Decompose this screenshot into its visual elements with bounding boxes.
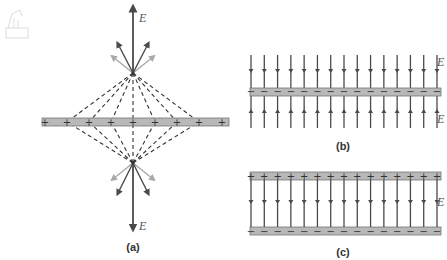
- svg-text:+: +: [218, 117, 226, 128]
- charge-sign: −: [420, 86, 428, 97]
- charge-sign: −: [313, 226, 321, 237]
- field-label-b-bottom: E: [436, 112, 445, 126]
- svg-text:+: +: [41, 117, 49, 128]
- charge-sign: +: [406, 171, 414, 182]
- charge-sign: +: [273, 171, 281, 182]
- charge-sign: −: [433, 86, 441, 97]
- panel-c: +−+−+−+−+−+−+−+−+−+−+−+−+−+−+− E (c): [247, 171, 445, 258]
- charge-sign: −: [393, 226, 401, 237]
- charge-sign: +: [353, 171, 361, 182]
- charge-sign: −: [380, 226, 388, 237]
- field-label-a-top: E: [138, 11, 147, 25]
- charge-sign: −: [380, 86, 388, 97]
- charge-sign: −: [327, 86, 335, 97]
- upper-field-arrows: [113, 8, 153, 75]
- charge-sign: −: [300, 86, 308, 97]
- charge-sign: +: [393, 171, 401, 182]
- charge-sign: +: [327, 171, 335, 182]
- charge-sign: +: [313, 171, 321, 182]
- panel-label-c: (c): [336, 246, 350, 258]
- field-label-a-bottom: E: [138, 219, 147, 233]
- charge-sign: +: [287, 171, 295, 182]
- panel-label-a: (a): [126, 241, 140, 253]
- figure-canvas: + + + + + + + + + E E: [0, 0, 447, 260]
- charge-sign: −: [353, 226, 361, 237]
- charge-sign: +: [366, 171, 374, 182]
- svg-text:+: +: [195, 117, 203, 128]
- panel-a: + + + + + + + + + E E: [41, 8, 229, 253]
- svg-text:+: +: [129, 117, 137, 128]
- svg-text:+: +: [151, 117, 159, 128]
- charge-sign: −: [260, 86, 268, 97]
- charge-sign: −: [273, 226, 281, 237]
- charge-sign: +: [433, 171, 441, 182]
- charge-sign: −: [273, 86, 281, 97]
- charge-sign: −: [366, 86, 374, 97]
- sheet-a-charges: + + + + + + + + +: [41, 117, 226, 128]
- charge-sign: −: [406, 86, 414, 97]
- svg-text:+: +: [85, 117, 93, 128]
- charge-sign: −: [313, 86, 321, 97]
- charge-sign: −: [420, 226, 428, 237]
- field-label-b-top: E: [436, 55, 445, 69]
- charge-sign: −: [287, 86, 295, 97]
- svg-text:+: +: [173, 117, 181, 128]
- charge-sign: −: [247, 226, 255, 237]
- charge-sign: +: [260, 171, 268, 182]
- charge-sign: −: [340, 86, 348, 97]
- charge-sign: −: [247, 86, 255, 97]
- field-label-c: E: [436, 195, 445, 209]
- charge-sign: −: [393, 86, 401, 97]
- charge-sign: −: [300, 226, 308, 237]
- panel-label-b: (b): [336, 140, 350, 152]
- watermark-icon: [6, 10, 28, 38]
- charge-sign: +: [247, 171, 255, 182]
- charge-sign: −: [340, 226, 348, 237]
- charge-sign: +: [340, 171, 348, 182]
- charge-sign: −: [260, 226, 268, 237]
- charge-sign: −: [327, 226, 335, 237]
- charge-sign: −: [366, 226, 374, 237]
- charge-sign: −: [406, 226, 414, 237]
- charge-sign: +: [380, 171, 388, 182]
- charge-sign: −: [287, 226, 295, 237]
- charge-sign: −: [353, 86, 361, 97]
- lower-field-arrows: [113, 161, 153, 228]
- svg-text:+: +: [63, 117, 71, 128]
- charge-sign: +: [300, 171, 308, 182]
- charge-sign: +: [420, 171, 428, 182]
- charge-sign: −: [433, 226, 441, 237]
- panel-b: −−−−−−−−−−−−−−− E E (b): [247, 55, 445, 152]
- svg-text:+: +: [107, 117, 115, 128]
